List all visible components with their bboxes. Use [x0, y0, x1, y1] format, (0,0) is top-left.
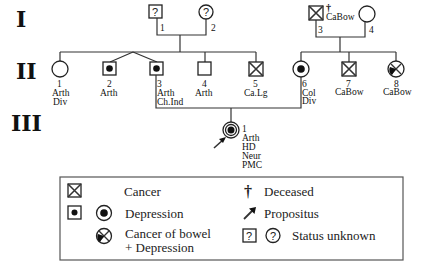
individual-II-8: 8 CaBow	[383, 61, 412, 97]
individual-II-1: 1 Arth Div	[52, 61, 70, 107]
individual-label: CaBow	[326, 12, 355, 22]
individual-II-2: 2 Arth	[100, 62, 118, 98]
pedigree-canvas: I II III ? 1 ? 2 † CaBow 3 4	[0, 0, 421, 265]
legend-cancer-bowel-label: Cancer of bowel	[125, 226, 211, 241]
pedigree-diagram: I II III ? 1 ? 2 † CaBow 3 4	[0, 0, 421, 265]
depression-dot	[228, 127, 235, 134]
individual-label: CaBow	[383, 87, 412, 97]
individual-II-7: 7 CaBow	[335, 62, 364, 97]
unknown-mark: ?	[246, 230, 252, 242]
legend-deceased-label: Deceased	[264, 184, 314, 199]
legend-deceased-icon: †	[244, 183, 252, 200]
legend-cancer-label: Cancer	[124, 184, 161, 199]
legend-propositus-icon	[244, 210, 253, 219]
individual-I-4: 4	[359, 6, 375, 35]
individual-label: Div	[302, 96, 317, 106]
depression-dot	[100, 209, 108, 217]
legend-box	[60, 177, 403, 260]
individual-II-5: 5 Ca.Lg	[244, 62, 268, 98]
legend-depression-label: Depression	[125, 206, 184, 221]
unknown-mark: ?	[152, 6, 158, 18]
female-unaffected-icon	[52, 61, 68, 77]
individual-II-4: 4 Arth	[195, 62, 213, 98]
depression-dot	[153, 65, 160, 72]
unknown-mark: ?	[203, 6, 209, 18]
generation-label-I: I	[16, 6, 26, 32]
individual-II-3: 3 Arth Ch.Ind	[150, 62, 183, 107]
generation-label-III: III	[11, 110, 42, 136]
individual-label: Ca.Lg	[244, 88, 268, 98]
individual-number: 3	[318, 25, 323, 35]
mating-line-I3-I4	[316, 20, 365, 37]
individual-number: 4	[369, 25, 374, 35]
unknown-mark: ?	[270, 230, 276, 242]
individual-label: Arth	[195, 88, 213, 98]
individual-label: Div	[53, 97, 68, 107]
individual-number: 1	[160, 23, 165, 33]
male-unaffected-icon	[198, 62, 211, 75]
depression-dot	[106, 65, 113, 72]
legend: Cancer Depression Cancer of bowel + Depr…	[60, 177, 403, 260]
depression-dot	[72, 210, 78, 216]
legend-cancer-bowel-label-2: + Depression	[125, 240, 195, 255]
female-unaffected-icon	[359, 6, 375, 22]
individual-label: CaBow	[335, 87, 364, 97]
twin-lines	[110, 52, 157, 62]
individual-I-2: ? 2	[199, 5, 216, 33]
individual-number: 2	[211, 23, 216, 33]
individual-III-1: 1 Arth HD Neur PMC	[214, 122, 262, 170]
depression-dot	[297, 65, 305, 73]
legend-status-unknown-label: Status unknown	[292, 228, 376, 243]
legend-propositus-label: Propositus	[264, 206, 319, 221]
individual-label: Arth	[100, 88, 118, 98]
individual-II-6: 6 Col Div	[293, 61, 317, 106]
individual-label: Ch.Ind	[157, 97, 183, 107]
generation-label-II: II	[16, 58, 37, 84]
individual-label: PMC	[242, 160, 262, 170]
